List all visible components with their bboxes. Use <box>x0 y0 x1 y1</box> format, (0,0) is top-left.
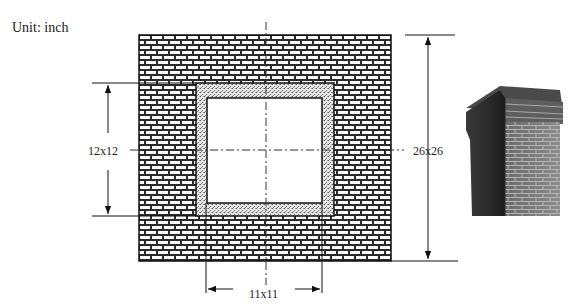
brick-chimney-photo <box>466 86 563 216</box>
dimension-label-12x12: 12x12 <box>88 144 118 158</box>
dimension-label-26x26: 26x26 <box>413 144 443 158</box>
dimension-label-11x11: 11x11 <box>249 287 278 301</box>
chimney-section-diagram: 12x12 26x26 11x11 <box>0 0 588 308</box>
